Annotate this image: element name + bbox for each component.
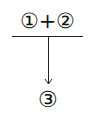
result-node: ③ [34,86,62,112]
